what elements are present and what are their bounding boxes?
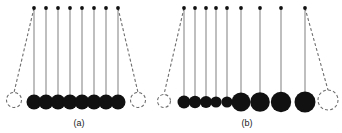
pendulum-ball xyxy=(221,96,232,107)
swung-pendulum-ball-dashed xyxy=(158,95,171,108)
pendulum-ball xyxy=(210,96,221,107)
pivot-point xyxy=(44,6,48,10)
pendulum-ball xyxy=(178,96,191,109)
swung-pendulum-string-dashed xyxy=(118,8,138,93)
swung-pendulum-string-dashed xyxy=(14,8,34,93)
pivot-point xyxy=(258,6,262,10)
pivot-point xyxy=(204,6,208,10)
pivot-point xyxy=(56,6,60,10)
pivot-point xyxy=(193,6,197,10)
pivot-point xyxy=(104,6,108,10)
pivot-point xyxy=(214,6,218,10)
pivot-point xyxy=(303,6,307,10)
pivot-point xyxy=(225,6,229,10)
pivot-point xyxy=(68,6,72,10)
pivot-point xyxy=(239,6,243,10)
pendulum-ball xyxy=(250,92,270,112)
swung-pendulum-ball-dashed xyxy=(131,93,146,108)
pivot-point xyxy=(116,6,120,10)
panel-label: (a) xyxy=(74,118,85,128)
swung-pendulum-ball-dashed xyxy=(7,93,22,108)
panel-a: (a) xyxy=(7,6,146,128)
pivot-point xyxy=(80,6,84,10)
pendulum-ball xyxy=(189,96,201,108)
pendulum-ball xyxy=(200,96,212,108)
pivot-point xyxy=(32,6,36,10)
swung-pendulum-string-dashed xyxy=(305,8,328,90)
swung-pendulum-ball-dashed xyxy=(318,90,338,110)
panel-b: (b) xyxy=(158,6,339,128)
pendulum-ball xyxy=(295,92,316,113)
swung-pendulum-string-dashed xyxy=(164,8,184,95)
newtons-cradle-figure: (a)(b) xyxy=(0,0,342,133)
pivot-point xyxy=(279,6,283,10)
pendulum-ball xyxy=(271,92,291,112)
pivot-point xyxy=(92,6,96,10)
pendulum-ball xyxy=(111,95,126,110)
pendulum-ball xyxy=(232,93,251,112)
cradle-diagram-canvas: (a)(b) xyxy=(0,0,342,133)
pivot-point xyxy=(182,6,186,10)
panel-label: (b) xyxy=(242,118,253,128)
